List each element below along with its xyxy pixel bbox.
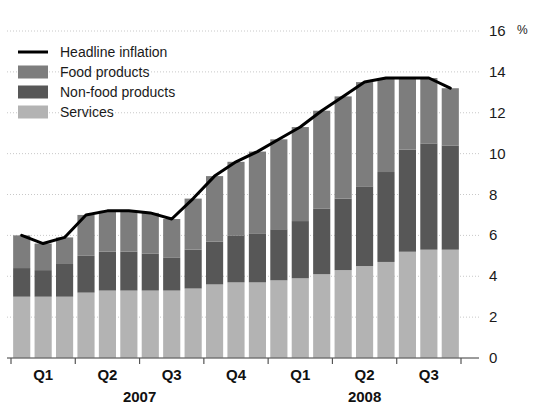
y-axis-tick-16: 16 [489, 22, 506, 39]
bar-segment [270, 229, 287, 280]
x-axis-quarter-label-2: Q3 [162, 366, 182, 383]
legend-swatch [18, 86, 48, 99]
bar-segment [356, 186, 373, 266]
bar-segment [420, 78, 437, 143]
legend-swatch [18, 66, 48, 79]
bar-segment [142, 254, 159, 291]
bar-segment [185, 250, 202, 289]
bar-segment [206, 176, 223, 241]
bar-segment [377, 262, 394, 358]
legend-item-non-food-products: Non-food products [18, 84, 175, 100]
legend-item-food-products: Food products [18, 64, 150, 80]
x-axis-quarter-label-0: Q1 [33, 366, 53, 383]
y-axis-tick-14: 14 [489, 63, 506, 80]
bar-segment [399, 150, 416, 252]
bar-segment [35, 244, 52, 271]
legend-item-services: Services [18, 104, 114, 120]
legend-label: Non-food products [60, 84, 175, 100]
bar-segment [77, 293, 94, 358]
bars-group [13, 78, 459, 358]
y-axis-tick-4: 4 [489, 267, 497, 284]
bar-segment [270, 280, 287, 358]
bar-segment [56, 297, 73, 358]
legend: Headline inflationFood productsNon-food … [18, 44, 175, 120]
bar-segment [13, 297, 30, 358]
bar-segment [442, 88, 459, 145]
bar-segment [420, 250, 437, 358]
x-axis-quarter-label-5: Q2 [355, 366, 375, 383]
bar-segment [377, 78, 394, 172]
x-axis-year-label-0: 2007 [123, 388, 156, 405]
bar-segment [56, 264, 73, 297]
legend-label: Headline inflation [60, 44, 167, 60]
y-axis-tick-10: 10 [489, 145, 506, 162]
bar-segment [249, 233, 266, 282]
bar-segment [56, 237, 73, 264]
x-axis-quarter-label-6: Q3 [419, 366, 439, 383]
bar-segment [313, 274, 330, 358]
bar-segment [292, 221, 309, 278]
bar-segment [356, 82, 373, 186]
bar-segment [77, 256, 94, 293]
bar-segment [120, 211, 137, 252]
bar-segment [313, 111, 330, 209]
bar-segment [185, 289, 202, 358]
legend-swatch [18, 106, 48, 119]
y-axis-tick-12: 12 [489, 104, 506, 121]
bar-segment [377, 172, 394, 262]
bar-segment [335, 199, 352, 271]
x-axis-year-label-1: 2008 [348, 388, 381, 405]
bar-segment [249, 152, 266, 234]
bar-segment [120, 252, 137, 291]
bar-segment [206, 242, 223, 285]
legend-item-headline-inflation: Headline inflation [18, 44, 167, 60]
bar-segment [227, 235, 244, 282]
bar-segment [142, 291, 159, 358]
bar-segment [399, 78, 416, 150]
bar-segment [35, 270, 52, 297]
bar-segment [99, 291, 116, 358]
bar-segment [313, 209, 330, 274]
bar-segment [206, 284, 223, 358]
bar-segment [35, 297, 52, 358]
bar-segment [442, 250, 459, 358]
x-axis-quarter-label-1: Q2 [97, 366, 117, 383]
x-axis-quarter-label-3: Q4 [226, 366, 247, 383]
y-axis-tick-0: 0 [489, 349, 497, 366]
bar-segment [99, 252, 116, 291]
bar-segment [356, 266, 373, 358]
bar-segment [249, 282, 266, 358]
y-axis-tick-2: 2 [489, 308, 497, 325]
bar-segment [420, 143, 437, 249]
bar-segment [270, 139, 287, 229]
x-axis-quarter-label-4: Q1 [290, 366, 310, 383]
bar-segment [227, 162, 244, 236]
bar-segment [99, 211, 116, 252]
inflation-stacked-bar-chart: 0246810121416%Q1Q2Q3Q4Q1Q2Q320072008Head… [0, 0, 546, 406]
legend-label: Food products [60, 64, 150, 80]
bar-segment [442, 145, 459, 249]
bar-segment [399, 252, 416, 358]
bar-segment [120, 291, 137, 358]
y-axis-tick-8: 8 [489, 186, 497, 203]
bar-segment [335, 96, 352, 198]
y-axis-unit-label: % [517, 23, 528, 37]
bar-segment [163, 291, 180, 358]
chart-canvas: 0246810121416%Q1Q2Q3Q4Q1Q2Q320072008Head… [0, 0, 546, 406]
bar-segment [13, 268, 30, 297]
legend-label: Services [60, 104, 114, 120]
bar-segment [142, 213, 159, 254]
y-axis-tick-6: 6 [489, 226, 497, 243]
bar-segment [292, 127, 309, 221]
bar-segment [227, 282, 244, 358]
bar-segment [335, 270, 352, 358]
bar-segment [13, 235, 30, 268]
bar-segment [163, 219, 180, 258]
bar-segment [163, 258, 180, 291]
bar-segment [292, 278, 309, 358]
